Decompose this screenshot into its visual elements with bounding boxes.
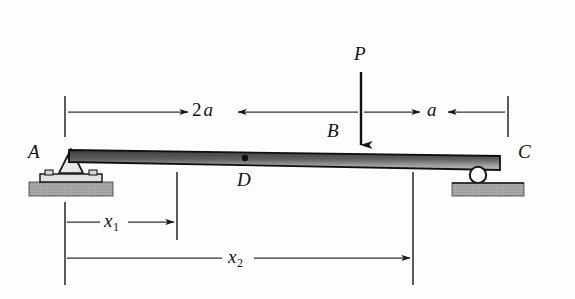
- label-dimension-x1: x1: [104, 211, 119, 233]
- label-dimension-2a-number: 2: [192, 99, 202, 120]
- label-point-b: B: [327, 121, 339, 140]
- label-dimension-a: a: [427, 100, 437, 119]
- label-dimension-x2: x2: [228, 247, 243, 269]
- ground-block-a: [29, 182, 113, 196]
- extension-lines: [65, 96, 508, 285]
- label-support-a: A: [28, 142, 40, 161]
- roller-support: [452, 167, 524, 196]
- label-dimension-x2-symbol: x: [228, 246, 236, 267]
- label-support-c: C: [518, 142, 531, 161]
- label-point-d: D: [237, 170, 251, 189]
- label-dimension-x1-symbol: x: [104, 210, 112, 231]
- label-load-p: P: [354, 44, 366, 63]
- beam: [69, 150, 500, 170]
- label-dimension-2a-symbol: a: [204, 99, 214, 120]
- diagram-canvas: [0, 0, 575, 299]
- point-d-marker: [242, 155, 248, 161]
- label-dimension-x1-subscript: 1: [113, 220, 119, 234]
- label-dimension-2a: 2a: [192, 100, 213, 119]
- beam-diagram-figure: A B C D P 2a a x1 x2: [0, 0, 575, 299]
- label-dimension-x2-subscript: 2: [237, 256, 243, 270]
